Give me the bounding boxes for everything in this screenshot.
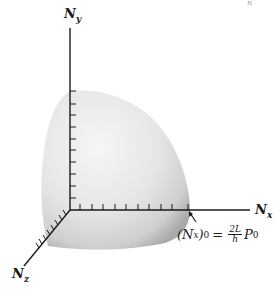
y-axis-label: Ny xyxy=(64,6,81,24)
intercept-formula: (Nx)0 = 2L h P0 xyxy=(177,225,258,244)
octant-diagram xyxy=(0,0,280,290)
x-axis-label: Nx xyxy=(255,202,272,220)
z-axis-label: Nz xyxy=(12,266,29,284)
corner-mark: n xyxy=(247,0,252,7)
ellipsoid-octant-surface xyxy=(41,90,190,249)
fraction: 2L h xyxy=(228,225,242,244)
